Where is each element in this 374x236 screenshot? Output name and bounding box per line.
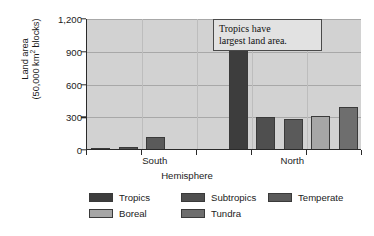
legend-swatch-icon bbox=[268, 193, 292, 202]
x-axis-tick-mark bbox=[196, 150, 197, 155]
bar bbox=[119, 147, 138, 149]
bar bbox=[284, 119, 303, 149]
x-axis-group-label-north: North bbox=[252, 155, 332, 166]
y-axis-title-line2-pre: (50,000 km bbox=[30, 54, 41, 100]
legend-swatch-icon bbox=[89, 209, 113, 218]
legend-swatch-icon bbox=[181, 193, 205, 202]
legend-item-temperate[interactable]: Temperate bbox=[268, 190, 343, 205]
y-axis-tick-label: 1,200 bbox=[38, 14, 82, 25]
y-axis-title-line1: Land area bbox=[19, 0, 30, 129]
legend-item-subtropics[interactable]: Subtropics bbox=[181, 190, 256, 205]
legend-label: Subtropics bbox=[211, 192, 256, 203]
x-axis-tick-mark bbox=[86, 150, 87, 155]
annotation-line2: largest land area. bbox=[219, 35, 317, 47]
x-axis-tick-mark bbox=[361, 150, 362, 155]
legend-swatch-icon bbox=[181, 209, 205, 218]
legend-label: Tropics bbox=[119, 192, 150, 203]
y-axis-tick-label: 900 bbox=[38, 46, 82, 57]
legend-label: Tundra bbox=[211, 208, 241, 219]
legend-item-tropics[interactable]: Tropics bbox=[89, 190, 150, 205]
x-axis-group-label-south: South bbox=[115, 155, 195, 166]
x-axis-title: Hemisphere bbox=[0, 170, 374, 181]
legend-label: Boreal bbox=[119, 208, 147, 219]
bar bbox=[146, 137, 165, 149]
bar bbox=[91, 148, 110, 149]
bar bbox=[311, 116, 330, 149]
legend-row: TropicsSubtropicsTemperate bbox=[0, 190, 374, 205]
y-axis-tick-label: 300 bbox=[38, 112, 82, 123]
y-axis-tick-label: 0 bbox=[38, 145, 82, 156]
annotation-callout: Tropics have largest land area. bbox=[213, 19, 322, 51]
bar bbox=[256, 117, 275, 149]
legend-swatch-icon bbox=[89, 193, 113, 202]
legend-item-tundra[interactable]: Tundra bbox=[181, 206, 241, 221]
chart-legend: TropicsSubtropicsTemperateBorealTundra bbox=[0, 190, 374, 234]
y-axis-title-superscript: 2 bbox=[29, 50, 36, 54]
y-axis-tick-label: 600 bbox=[38, 79, 82, 90]
legend-label: Temperate bbox=[298, 192, 343, 203]
legend-row: BorealTundra bbox=[0, 206, 374, 221]
annotation-line1: Tropics have bbox=[219, 23, 317, 35]
legend-item-boreal[interactable]: Boreal bbox=[89, 206, 147, 221]
bar bbox=[339, 107, 358, 149]
bar-chart: Land area (50,000 km2 blocks) 0300600900… bbox=[0, 0, 374, 236]
